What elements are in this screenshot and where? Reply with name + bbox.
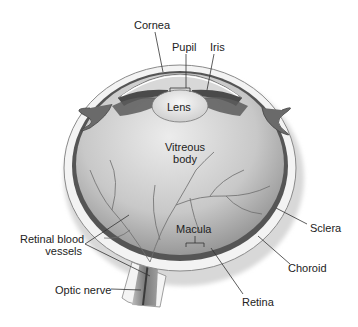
label-pupil: Pupil bbox=[172, 41, 196, 53]
label-vitreous-line2: body bbox=[160, 153, 210, 165]
label-retinal-vessels-line1: Retinal blood bbox=[20, 233, 82, 245]
label-choroid: Choroid bbox=[288, 262, 327, 274]
label-cornea: Cornea bbox=[134, 19, 170, 31]
label-vitreous-line1: Vitreous bbox=[160, 141, 210, 153]
label-retina: Retina bbox=[242, 296, 274, 308]
label-sclera: Sclera bbox=[310, 222, 341, 234]
label-retinal-vessels-line2: vessels bbox=[20, 245, 82, 257]
label-lens: Lens bbox=[167, 101, 191, 113]
label-optic-nerve: Optic nerve bbox=[55, 284, 111, 296]
label-macula: Macula bbox=[176, 223, 211, 235]
label-iris: Iris bbox=[210, 41, 225, 53]
label-vitreous-body: Vitreous body bbox=[160, 141, 210, 165]
label-retinal-vessels: Retinal blood vessels bbox=[20, 233, 82, 257]
